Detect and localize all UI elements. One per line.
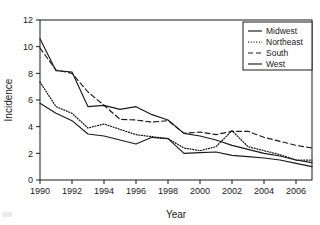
x-tick-label: 1996	[126, 186, 146, 196]
x-tick-label: 1998	[158, 186, 178, 196]
legend-label-west: West	[266, 59, 286, 69]
chart-legend: MidwestNortheastSouthWest	[243, 22, 312, 70]
y-tick-label: 10	[23, 42, 33, 52]
y-tick-label: 0	[28, 175, 33, 185]
line-chart: 199019921994199619982000200220042006 024…	[0, 0, 320, 225]
legend-label-midwest: Midwest	[266, 26, 298, 36]
y-tick-label: 4	[28, 122, 33, 132]
x-axis-tick-labels: 199019921994199619982000200220042006	[30, 186, 306, 196]
series-line-northeast	[40, 82, 312, 160]
x-tick-label: 2006	[286, 186, 306, 196]
y-tick-label: 8	[28, 69, 33, 79]
x-tick-label: 2004	[254, 186, 274, 196]
x-tick-label: 1994	[94, 186, 114, 196]
legend-label-south: South	[266, 48, 288, 58]
series-line-west	[40, 103, 312, 166]
x-tick-label: 2002	[222, 186, 242, 196]
legend-label-northeast: Northeast	[266, 37, 303, 47]
chart-figure: 199019921994199619982000200220042006 024…	[0, 0, 320, 225]
x-axis-title: Year	[166, 209, 187, 220]
x-tick-label: 1992	[62, 186, 82, 196]
y-axis-title: Incidence	[3, 78, 14, 121]
y-tick-label: 12	[23, 15, 33, 25]
y-tick-label: 2	[28, 149, 33, 159]
y-axis-tick-labels: 024681012	[23, 15, 33, 185]
x-tick-label: 1990	[30, 186, 50, 196]
y-tick-label: 6	[28, 95, 33, 105]
scan-artifact	[2, 212, 12, 217]
x-tick-label: 2000	[190, 186, 210, 196]
